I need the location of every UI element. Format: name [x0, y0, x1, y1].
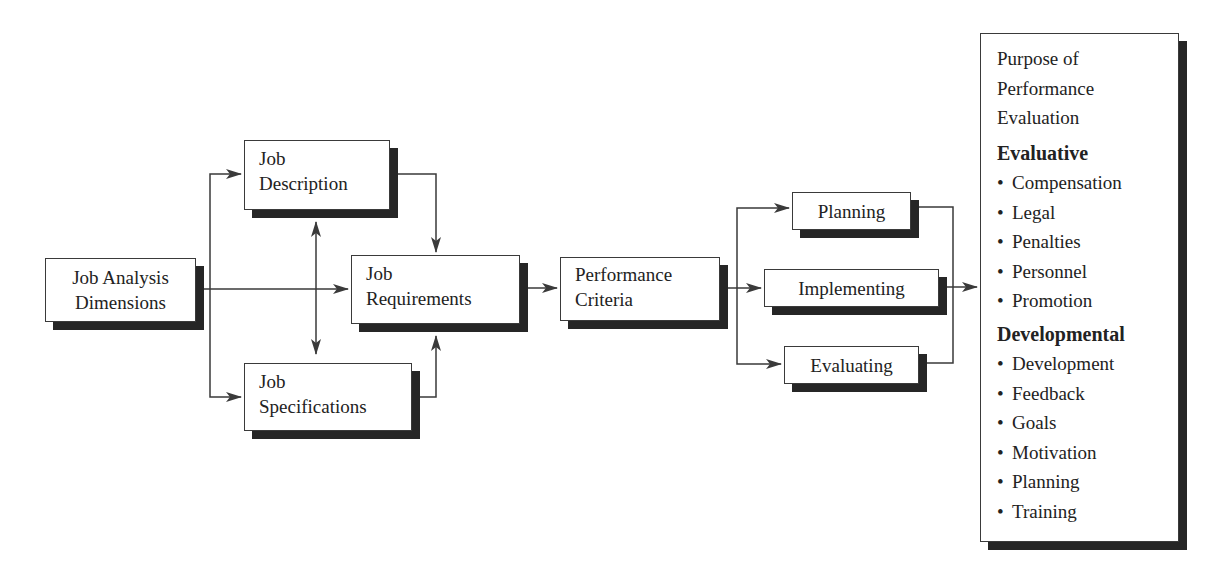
- edge-description-to-requirements: [398, 174, 436, 252]
- node-implementing: Implementing: [764, 269, 939, 307]
- section-heading-developmental: Developmental: [997, 320, 1178, 350]
- node-job-specifications: Job Specifications: [244, 363, 412, 431]
- node-label: Planning: [818, 199, 886, 224]
- node-label: Implementing: [798, 276, 905, 301]
- list-item: •Promotion: [997, 286, 1178, 316]
- list-item: •Development: [997, 349, 1178, 379]
- bullet-icon: •: [997, 227, 1012, 257]
- list-item: •Personnel: [997, 257, 1178, 287]
- node-label: Job Analysis Dimensions: [72, 265, 169, 315]
- node-job-analysis-dimensions: Job Analysis Dimensions: [45, 258, 196, 322]
- list-item: •Planning: [997, 467, 1178, 497]
- bullet-icon: •: [997, 286, 1012, 316]
- node-label: Performance Criteria: [575, 262, 719, 312]
- edge-analysis-to-specifications: [210, 289, 241, 397]
- list-item: •Goals: [997, 408, 1178, 438]
- node-job-requirements: Job Requirements: [351, 255, 520, 324]
- node-planning: Planning: [792, 192, 911, 230]
- node-job-description: Job Description: [244, 140, 390, 210]
- bullet-icon: •: [997, 497, 1012, 527]
- node-label: Job Description: [259, 146, 389, 196]
- list-item: •Training: [997, 497, 1178, 527]
- list-item: •Legal: [997, 198, 1178, 228]
- bullet-icon: •: [997, 438, 1012, 468]
- node-label: Evaluating: [810, 353, 892, 378]
- edge-analysis-to-description: [210, 174, 241, 289]
- node-evaluating: Evaluating: [784, 346, 919, 384]
- list-item: •Feedback: [997, 379, 1178, 409]
- bullet-icon: •: [997, 349, 1012, 379]
- node-label: Job Specifications: [259, 369, 411, 419]
- developmental-list: •Development •Feedback •Goals •Motivatio…: [997, 349, 1178, 526]
- node-performance-criteria: Performance Criteria: [560, 257, 720, 321]
- purpose-title: Purpose of Performance Evaluation: [997, 44, 1178, 133]
- bullet-icon: •: [997, 408, 1012, 438]
- node-label: Job Requirements: [366, 261, 519, 311]
- list-item: •Motivation: [997, 438, 1178, 468]
- bullet-icon: •: [997, 257, 1012, 287]
- list-item: •Compensation: [997, 168, 1178, 198]
- bullet-icon: •: [997, 379, 1012, 409]
- section-heading-evaluative: Evaluative: [997, 139, 1178, 169]
- edge-specifications-to-requirements: [420, 336, 436, 397]
- bullet-icon: •: [997, 168, 1012, 198]
- bullet-icon: •: [997, 198, 1012, 228]
- node-purpose-of-performance-evaluation: Purpose of Performance Evaluation Evalua…: [980, 33, 1179, 542]
- evaluative-list: •Compensation •Legal •Penalties •Personn…: [997, 168, 1178, 316]
- bullet-icon: •: [997, 467, 1012, 497]
- list-item: •Penalties: [997, 227, 1178, 257]
